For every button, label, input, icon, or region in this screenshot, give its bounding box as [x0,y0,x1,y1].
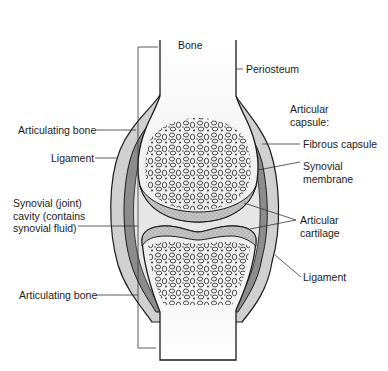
label-synovial-membrane-line2: membrane [303,173,353,186]
label-fibrous-capsule: Fibrous capsule [303,138,377,151]
label-ligament-right: Ligament [303,271,346,284]
lower-spongy-bone [148,242,250,305]
label-synovial-cavity-line2: cavity (contains [13,210,85,223]
label-articular-cartilage-line1: Articular [300,214,340,227]
label-articular-capsule-line2: capsule: [290,116,329,129]
synovial-joint-diagram [0,0,388,371]
label-articular-cartilage: Articular cartilage [300,214,340,239]
label-articulating-bone-bottom: Articulating bone [19,289,97,302]
upper-spongy-bone [145,118,250,210]
label-articulating-bone-top: Articulating bone [18,124,96,137]
label-articular-capsule: Articular capsule: [290,103,329,128]
label-periosteum: Periosteum [246,63,299,76]
label-bone: Bone [178,39,203,52]
label-synovial-membrane-line1: Synovial [303,160,353,173]
label-synovial-cavity-line3: synovial fluid) [13,222,85,235]
label-synovial-cavity: Synovial (joint) cavity (contains synovi… [13,197,85,235]
label-articular-capsule-line1: Articular [290,103,329,116]
label-ligament-left: Ligament [51,152,94,165]
label-articular-cartilage-line2: cartilage [300,227,340,240]
label-synovial-membrane: Synovial membrane [303,160,353,185]
label-synovial-cavity-line1: Synovial (joint) [13,197,85,210]
